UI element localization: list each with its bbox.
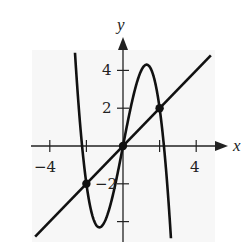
x-axis-label: x — [232, 136, 241, 155]
y-tick-label-neg2: −2 — [95, 175, 117, 193]
graph-figure: x y −4 4 4 2 −2 — [0, 0, 246, 250]
x-axis-arrow-icon — [215, 141, 228, 151]
x-tick-label-neg4: −4 — [34, 158, 56, 176]
intersection-point — [82, 180, 90, 188]
plot-area: x y −4 4 4 2 −2 — [0, 0, 246, 250]
y-tick-label-2: 2 — [102, 99, 112, 117]
x-tick-label-4: 4 — [190, 158, 200, 176]
intersection-point — [119, 142, 127, 150]
y-axis-label: y — [115, 15, 125, 34]
y-tick-label-4: 4 — [102, 61, 112, 79]
y-axis-arrow-icon — [118, 37, 128, 50]
intersection-point — [155, 104, 163, 112]
